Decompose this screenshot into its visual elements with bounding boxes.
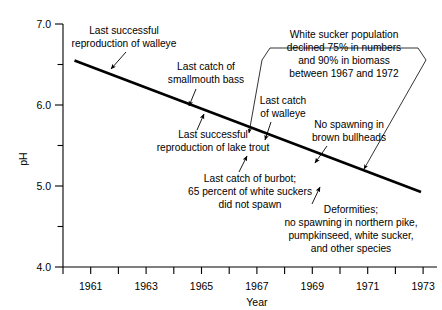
- annotation-burbot-line2: 65 percent of white suckers: [188, 186, 312, 197]
- annotation-walleye-leader: [111, 52, 126, 69]
- annotation-smallmouth-leader: [189, 89, 196, 106]
- x-tick-label-1963: 1963: [134, 280, 158, 292]
- y-tick-label-4: 4.0: [36, 261, 51, 273]
- chart-canvas: 7.0 6.0 5.0 4.0 pH 1961 1963 1965: [0, 0, 442, 310]
- x-tick-label-1973: 1973: [411, 280, 435, 292]
- annotation-lastwalleye-line2: of walleye: [260, 108, 306, 119]
- y-axis-title: pH: [17, 152, 29, 165]
- annotation-laketrout-line1: Last successful: [178, 129, 248, 140]
- annotation-deformities-line4: and other species: [311, 243, 391, 254]
- annotation-lake-trout: Last successful reproduction of lake tro…: [157, 114, 270, 153]
- x-axis-title: Year: [246, 296, 268, 308]
- y-tick-label-5: 5.0: [36, 180, 51, 192]
- annotation-bullheads-line1: No spawning in: [314, 119, 384, 130]
- annotation-smallmouth-line1: Last catch of: [177, 61, 235, 72]
- annotation-deformities-line1: Deformities;: [324, 204, 378, 215]
- annotation-burbot-white-suckers: Last catch of burbot; 65 percent of whit…: [188, 156, 312, 210]
- annotation-deformities-line2: no spawning in northern pike,: [284, 217, 417, 228]
- ph-trend-chart: 7.0 6.0 5.0 4.0 pH 1961 1963 1965: [0, 0, 442, 310]
- annotation-deformities-leader: [312, 187, 320, 204]
- annotation-laketrout-leader: [197, 114, 204, 130]
- y-tick-label-6: 6.0: [36, 99, 51, 111]
- annotation-deformities: Deformities; no spawning in northern pik…: [284, 187, 417, 254]
- annotation-walleye-line1: Last successful: [89, 25, 159, 36]
- annotation-lastwalleye-line1: Last catch: [260, 95, 306, 106]
- x-tick-label-1971: 1971: [356, 280, 380, 292]
- x-tick-label-1969: 1969: [301, 280, 325, 292]
- y-axis: 7.0 6.0 5.0 4.0 pH: [17, 18, 63, 273]
- x-axis: 1961 1963 1965 1967 1969 1971 1973 Year: [63, 267, 437, 308]
- annotation-whitesucker-line4: between 1967 and 1972: [289, 68, 399, 79]
- annotation-laketrout-line2: reproduction of lake trout: [157, 142, 270, 153]
- annotation-lastwalleye-leader: [265, 122, 271, 140]
- annotation-whitesucker-line1: White sucker population: [290, 29, 399, 40]
- y-tick-label-7: 7.0: [36, 18, 51, 30]
- annotation-burbot-leader: [239, 156, 247, 172]
- x-tick-label-1965: 1965: [190, 280, 214, 292]
- x-tick-label-1961: 1961: [79, 280, 103, 292]
- annotation-walleye-line2: reproduction of walleye: [72, 38, 177, 49]
- annotation-bullheads-line2: brown bullheads: [312, 132, 386, 143]
- annotation-whitesucker-line2: declined 75% in numbers: [287, 42, 401, 53]
- annotation-burbot-line1: Last catch of burbot;: [204, 173, 296, 184]
- x-tick-label-1967: 1967: [245, 280, 269, 292]
- annotation-deformities-line3: pumpkinseed, white sucker,: [288, 230, 413, 241]
- annotation-burbot-line3: did not spawn: [219, 199, 282, 210]
- annotation-whitesucker-line3: and 90% in biomass: [298, 55, 390, 66]
- annotation-smallmouth-line2: smallmouth bass: [168, 74, 244, 85]
- annotation-brown-bullheads: No spawning in brown bullheads: [312, 119, 386, 163]
- annotation-walleye-reproduction: Last successful reproduction of walleye: [72, 25, 177, 69]
